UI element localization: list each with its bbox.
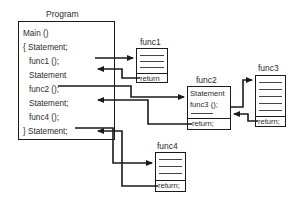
arrow-func3-return-to-func2	[234, 114, 258, 121]
arrow-func2-to-func3	[231, 80, 252, 107]
arrow-main-to-func2	[58, 86, 184, 97]
arrow-main-to-func4	[75, 128, 152, 163]
diagram-canvas: Program Main () { Statement; func1 (); S…	[0, 0, 301, 204]
control-flow-connectors	[0, 0, 301, 204]
arrow-func2-return-to-main	[98, 100, 192, 124]
arrow-func1-return-to-main	[98, 69, 140, 78]
arrow-func4-return-to-main	[98, 131, 158, 186]
